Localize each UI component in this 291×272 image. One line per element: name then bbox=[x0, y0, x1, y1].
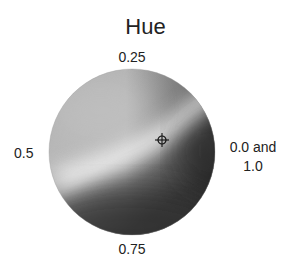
hue-wheel bbox=[0, 0, 291, 272]
hue-diagram: Hue 0.25 0.5 0.75 0.0 and 1.0 bbox=[0, 0, 291, 272]
